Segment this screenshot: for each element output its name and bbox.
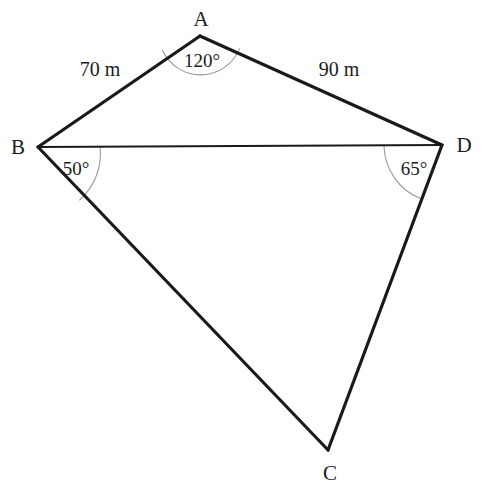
vertex-label-C: C — [323, 463, 337, 484]
angle-label-B: 50° — [63, 159, 90, 178]
angle-label-D: 65° — [401, 159, 428, 178]
edge-B-D — [38, 145, 442, 147]
angle-arc-group — [79, 48, 420, 200]
vertex-label-D: D — [456, 135, 471, 156]
side-label-AB: 70 m — [80, 59, 121, 79]
side-label-AD: 90 m — [319, 59, 360, 79]
vertex-label-B: B — [11, 137, 25, 158]
vertex-label-A: A — [193, 9, 208, 30]
geometry-diagram: A B C D 70 m 90 m 120° 50° 65° — [0, 0, 482, 492]
edge-A-D — [200, 36, 442, 145]
diagram-canvas — [0, 0, 482, 492]
angle-label-A: 120° — [184, 51, 220, 70]
edge-B-A — [38, 36, 200, 147]
edge-D-C — [328, 145, 442, 450]
edge-B-C — [38, 147, 328, 450]
polygon-edge-group — [38, 36, 442, 450]
